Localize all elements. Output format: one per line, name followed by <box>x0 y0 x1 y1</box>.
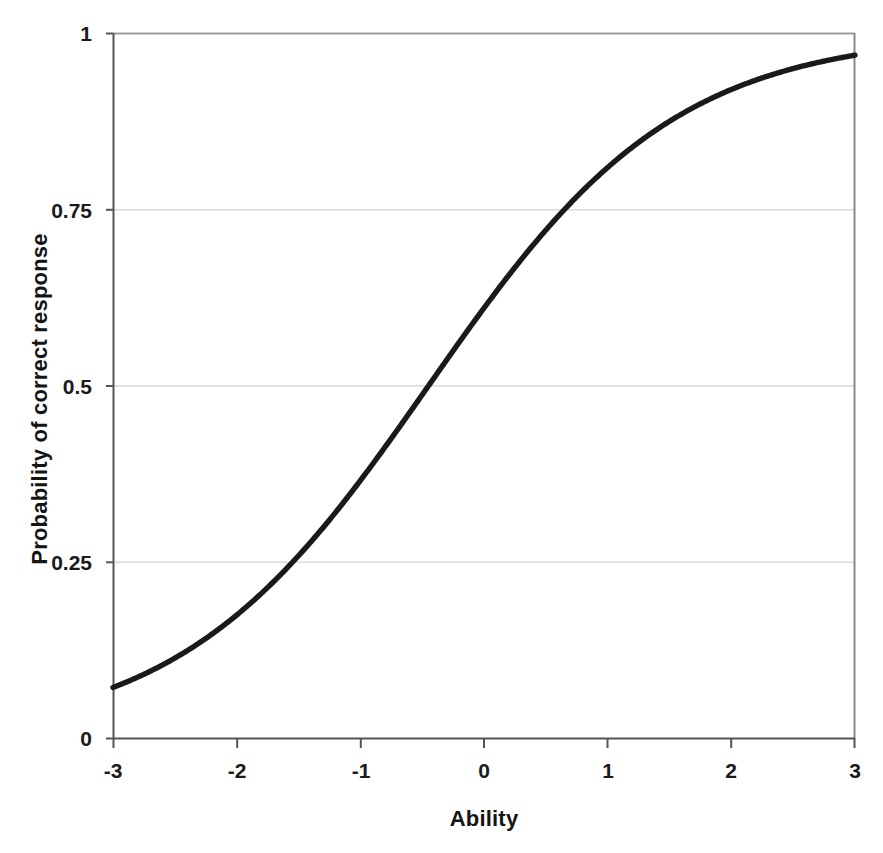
x-tick-label--3: -3 <box>104 760 123 781</box>
y-tick-label-1: 1 <box>40 23 92 44</box>
x-tick-label-1: 1 <box>602 760 614 781</box>
x-axis-title: Ability <box>113 806 855 832</box>
x-tick-label--2: -2 <box>228 760 247 781</box>
y-axis-ticks <box>106 34 113 739</box>
item-characteristic-curve <box>113 55 855 687</box>
chart-figure: 1 0.75 0.5 0.25 0 -3 -2 -1 0 1 2 3 Abili… <box>0 0 883 853</box>
x-tick-label--1: -1 <box>352 760 371 781</box>
plot-canvas <box>0 0 883 853</box>
x-tick-label-2: 2 <box>725 760 737 781</box>
y-axis-title: Probability of correct response <box>27 47 53 751</box>
x-tick-label-0: 0 <box>478 760 490 781</box>
x-tick-label-3: 3 <box>849 760 861 781</box>
gridlines <box>113 34 855 563</box>
